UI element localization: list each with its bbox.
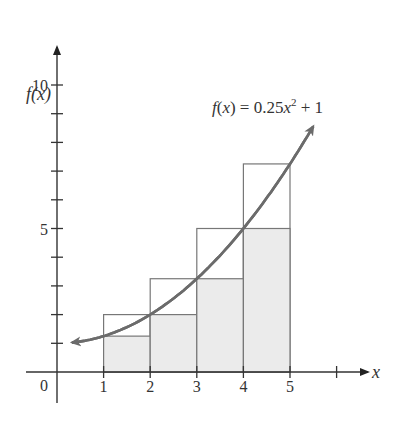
function-label: f(x) = 0.25x2 + 1 [212,96,323,117]
x-tick-label: 5 [286,378,294,395]
x-tick-label: 4 [239,378,247,395]
x-axis-title: x [371,362,380,382]
riemann-sum-chart: f(x)x012345510f(x) = 0.25x2 + 1 [0,0,393,421]
y-tick-label: 10 [32,77,48,94]
inner-rect [104,336,151,372]
x-tick-label: 3 [193,378,201,395]
inner-rect [197,279,244,372]
inner-rect [150,315,197,372]
origin-label: 0 [40,377,48,394]
y-tick-label: 5 [40,221,48,238]
x-tick-label: 2 [146,378,154,395]
x-tick-label: 1 [100,378,108,395]
inner-rect [243,229,290,373]
